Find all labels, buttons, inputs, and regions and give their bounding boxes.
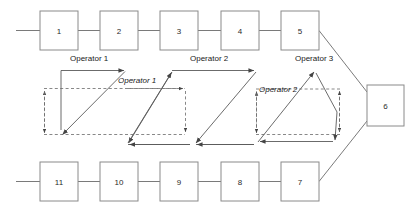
station-11-label: 11 [55, 178, 64, 187]
operator-2-italic-label: Operator 2 [259, 85, 298, 94]
connector-7-6 [319, 121, 367, 182]
station-8[interactable]: 8 [221, 162, 259, 201]
station-8-label: 8 [238, 178, 243, 187]
station-6-label: 6 [383, 102, 388, 111]
station-5[interactable]: 5 [281, 11, 319, 50]
operator-3-solid-path [258, 72, 337, 142]
station-3[interactable]: 3 [160, 11, 198, 50]
process-flow-diagram: 1 2 3 4 5 11 [0, 0, 420, 213]
station-3-label: 3 [177, 27, 182, 36]
operator-2-solid-path [172, 71, 256, 145]
station-5-label: 5 [298, 27, 303, 36]
op3-diagonal-up-left [258, 72, 314, 142]
station-4[interactable]: 4 [221, 11, 259, 50]
station-9[interactable]: 9 [160, 162, 198, 201]
op1-diagonal-arrow [63, 72, 126, 135]
diagram-canvas: 1 2 3 4 5 11 [0, 0, 420, 213]
station-6[interactable]: 6 [367, 85, 404, 126]
station-2-label: 2 [117, 27, 122, 36]
operator-1-upright-label: Operator 1 [70, 54, 109, 63]
station-11[interactable]: 11 [40, 162, 78, 201]
operator-1-left-dashed-box [44, 89, 185, 135]
op2-diagonal-down [196, 72, 256, 143]
station-10[interactable]: 10 [100, 162, 138, 201]
op3-right-lower-edge [335, 112, 337, 140]
operator-2-italic-dashed-box [256, 89, 340, 135]
station-1[interactable]: 1 [40, 11, 78, 50]
station-9-label: 9 [177, 178, 182, 187]
station-1-label: 1 [57, 27, 62, 36]
operator-1-left-solid-path [61, 71, 125, 135]
station-4-label: 4 [238, 27, 243, 36]
operator-2-upright-label: Operator 2 [190, 54, 229, 63]
operator-3-upright-label: Operator 3 [295, 54, 334, 63]
station-7[interactable]: 7 [281, 162, 319, 201]
operator-1-italic-dashed-box [128, 89, 186, 133]
station-10-label: 10 [115, 178, 124, 187]
op3-right-upper-edge [316, 73, 337, 112]
operator-1-italic-label: Operator 1 [118, 76, 156, 85]
station-2[interactable]: 2 [100, 11, 138, 50]
station-7-label: 7 [298, 178, 303, 187]
